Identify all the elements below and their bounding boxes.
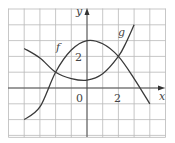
curve-label-g: g [118, 26, 125, 39]
y-tick-label-2: 2 [75, 51, 82, 64]
function-graph: y x 0 2 2 f g [0, 0, 175, 143]
x-axis-label: x [159, 90, 166, 103]
x-tick-label-2: 2 [114, 92, 121, 105]
y-axis-label: y [75, 5, 83, 18]
origin-label: 0 [76, 92, 83, 105]
curve-label-f: f [55, 41, 62, 54]
